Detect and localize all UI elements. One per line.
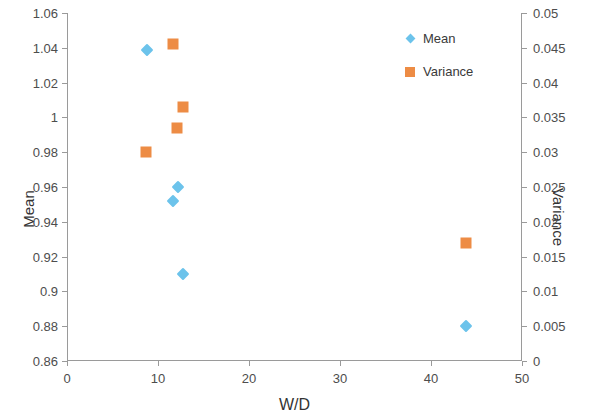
y-axis-left-tick-label: 1.06 [33,7,58,20]
y-axis-right-tick-label: 0.01 [533,285,558,298]
y-axis-right-tick-label: 0.025 [533,181,566,194]
y-axis-right-tick [522,291,527,292]
y-axis-right-tick [522,257,527,258]
y-axis-left-tick-label: 0.86 [33,355,58,368]
y-axis-right-tick-label: 0 [533,355,540,368]
y-axis-right-tick-label: 0.015 [533,250,566,263]
data-point-mean[interactable] [141,43,154,56]
x-axis-tick [431,361,432,366]
y-axis-left-tick-label: 0.9 [40,285,58,298]
x-axis-tick-label: 10 [151,372,165,385]
y-axis-left-tick [62,117,67,118]
x-axis-tick-label: 40 [424,372,438,385]
legend-item-label: Mean [423,31,456,46]
data-point-mean[interactable] [166,195,179,208]
y-axis-right-tick-label: 0.005 [533,320,566,333]
data-point-mean[interactable] [460,320,473,333]
x-axis-tick-label: 0 [63,372,70,385]
y-axis-left-tick [62,222,67,223]
y-axis-left-tick-label: 0.94 [33,215,58,228]
y-axis-left-tick-label: 0.96 [33,181,58,194]
y-axis-left-tick [62,13,67,14]
y-axis-right-tick [522,117,527,118]
data-point-variance[interactable] [461,237,472,248]
data-point-variance[interactable] [168,39,179,50]
x-axis-title: W/D [279,396,310,414]
legend-item-mean[interactable]: Mean [405,30,473,47]
y-axis-left-tick-label: 0.88 [33,320,58,333]
y-axis-left-tick-label: 1 [51,111,58,124]
y-axis-right-tick-label: 0.035 [533,111,566,124]
y-axis-left-line [67,13,68,361]
scatter-chart: Mean Variance W/D 0.860.880.90.920.940.9… [0,0,589,418]
data-point-variance[interactable] [172,122,183,133]
legend-item-label: Variance [423,64,473,79]
y-axis-left-tick-label: 1.02 [33,76,58,89]
data-point-variance[interactable] [141,147,152,158]
y-axis-right-tick [522,13,527,14]
y-axis-left-tick-label: 0.92 [33,250,58,263]
data-point-mean[interactable] [172,181,185,194]
y-axis-right-tick-label: 0.03 [533,146,558,159]
y-axis-left-tick [62,48,67,49]
y-axis-left-tick-label: 1.04 [33,41,58,54]
y-axis-left-tick [62,187,67,188]
y-axis-left-tick-label: 0.98 [33,146,58,159]
y-axis-right-tick [522,83,527,84]
chart-legend: MeanVariance [405,30,473,96]
data-point-variance[interactable] [178,101,189,112]
x-axis-line [67,360,522,361]
x-axis-tick [67,361,68,366]
y-axis-right-tick [522,48,527,49]
y-axis-left-tick [62,257,67,258]
y-axis-right-tick [522,326,527,327]
y-axis-left-tick [62,326,67,327]
y-axis-left-tick [62,152,67,153]
y-axis-right-tick-label: 0.02 [533,215,558,228]
data-point-mean[interactable] [177,268,190,281]
y-axis-right-tick-label: 0.04 [533,76,558,89]
x-axis-tick-label: 50 [515,372,529,385]
y-axis-right-tick [522,222,527,223]
y-axis-left-tick [62,291,67,292]
y-axis-right-tick [522,187,527,188]
y-axis-left-tick [62,83,67,84]
y-axis-right-tick-label: 0.045 [533,41,566,54]
x-axis-tick [522,361,523,366]
legend-item-variance[interactable]: Variance [405,63,473,80]
x-axis-tick [249,361,250,366]
y-axis-right-tick-label: 0.05 [533,7,558,20]
legend-square-icon [405,67,415,77]
x-axis-tick-label: 30 [333,372,347,385]
y-axis-right-tick [522,152,527,153]
x-axis-tick [340,361,341,366]
legend-diamond-icon [406,34,416,44]
x-axis-tick [158,361,159,366]
x-axis-tick-label: 20 [242,372,256,385]
